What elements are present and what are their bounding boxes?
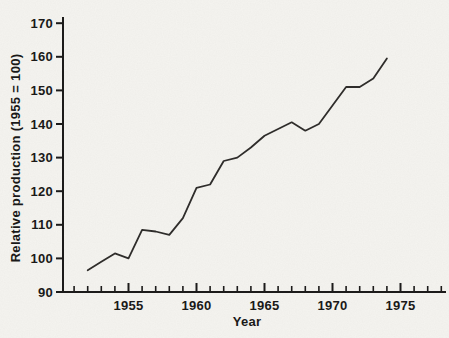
x-tick-label: 1955: [113, 298, 143, 313]
y-tick-label: 130: [30, 150, 53, 165]
x-tick-label: 1965: [249, 298, 279, 313]
x-tick-label: 1970: [317, 298, 347, 313]
y-tick-label: 90: [38, 285, 53, 300]
x-tick-label: 1975: [385, 298, 415, 313]
x-axis-title: Year: [233, 314, 262, 329]
y-axis-title: Relative production (1955 = 100): [8, 54, 23, 263]
y-tick-label: 140: [30, 117, 53, 132]
y-tick-label: 110: [31, 217, 53, 232]
x-tick-label: 1960: [181, 298, 211, 313]
y-tick-label: 170: [30, 16, 53, 31]
y-tick-label: 150: [30, 83, 53, 98]
line-chart-canvas: 9010011012013014015016017019551960196519…: [0, 0, 449, 338]
production-line-chart-figure: 9010011012013014015016017019551960196519…: [0, 0, 449, 338]
y-tick-label: 120: [30, 184, 53, 199]
y-tick-label: 100: [30, 251, 53, 266]
y-tick-label: 160: [30, 49, 53, 64]
